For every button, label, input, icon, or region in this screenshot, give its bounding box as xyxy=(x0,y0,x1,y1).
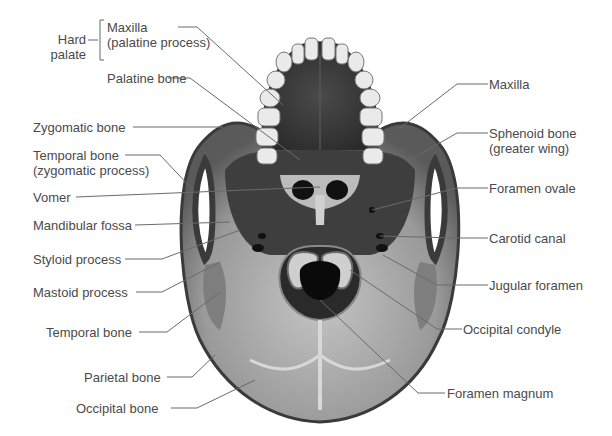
skull-diagram: Hard palate Maxilla (palatine process) P… xyxy=(0,0,612,436)
sphenoid-line1: Sphenoid bone xyxy=(489,126,576,141)
label-occipital-condyle: Occipital condyle xyxy=(463,322,561,337)
label-sphenoid-bone-greater-wing: Sphenoid bone (greater wing) xyxy=(489,126,576,156)
sphenoid-line2: (greater wing) xyxy=(489,141,576,156)
hard-palate-line2: palate xyxy=(30,47,86,62)
maxilla-line1: Maxilla xyxy=(107,20,210,35)
label-styloid-process: Styloid process xyxy=(33,252,121,267)
label-foramen-magnum: Foramen magnum xyxy=(447,386,553,401)
label-temporal-bone: Temporal bone xyxy=(46,325,132,340)
label-hard-palate: Hard palate xyxy=(30,32,86,62)
label-maxilla-palatine-process: Maxilla (palatine process) xyxy=(107,20,210,50)
label-jugular-foramen: Jugular foramen xyxy=(489,278,583,293)
label-vomer: Vomer xyxy=(33,190,71,205)
palate-and-teeth xyxy=(256,38,384,164)
skull-base xyxy=(181,123,459,422)
label-mastoid-process: Mastoid process xyxy=(33,285,128,300)
hard-palate-line1: Hard xyxy=(30,32,86,47)
label-occipital-bone: Occipital bone xyxy=(76,401,158,416)
temporal-zygomatic-line2: (zygomatic process) xyxy=(33,163,149,178)
label-zygomatic-bone: Zygomatic bone xyxy=(33,120,126,135)
label-parietal-bone: Parietal bone xyxy=(84,370,161,385)
label-mandibular-fossa: Mandibular fossa xyxy=(33,218,132,233)
label-maxilla: Maxilla xyxy=(489,77,529,92)
maxilla-line2: (palatine process) xyxy=(107,35,210,50)
label-temporal-bone-zygomatic-process: Temporal bone (zygomatic process) xyxy=(33,148,149,178)
label-palatine-bone: Palatine bone xyxy=(107,71,187,86)
hard-palate-bracket xyxy=(100,20,104,60)
label-carotid-canal: Carotid canal xyxy=(489,231,566,246)
label-foramen-ovale: Foramen ovale xyxy=(489,181,576,196)
temporal-zygomatic-line1: Temporal bone xyxy=(33,148,149,163)
